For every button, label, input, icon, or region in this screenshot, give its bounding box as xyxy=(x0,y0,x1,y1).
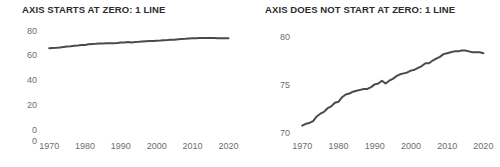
y-axis-tick-label: 70 xyxy=(280,128,290,138)
chart-panel-axis-does-not-start-at-zero: AXIS DOES NOT START AT ZERO: 1 LINE 7075… xyxy=(250,0,500,167)
y-axis-tick-label: 0 xyxy=(32,125,37,135)
plot-area-left: 0020406080197019801990200020102020 xyxy=(0,0,250,167)
x-axis-tick-label: 2000 xyxy=(139,141,175,151)
x-axis-tick-label: 2010 xyxy=(429,141,465,151)
x-axis-tick-label: 1990 xyxy=(103,141,139,151)
figure-panels: AXIS STARTS AT ZERO: 1 LINE 002040608019… xyxy=(0,0,500,167)
x-axis-tick-label: 2020 xyxy=(465,141,500,151)
y-axis-tick-label: 80 xyxy=(280,32,290,42)
chart-panel-axis-starts-at-zero: AXIS STARTS AT ZERO: 1 LINE 002040608019… xyxy=(0,0,250,167)
x-axis-tick-label: 1970 xyxy=(31,141,67,151)
x-axis-tick-label: 1990 xyxy=(357,141,393,151)
plot-area-right: 707580197019801990200020102020 xyxy=(250,0,500,167)
x-axis-tick-label: 1980 xyxy=(320,141,356,151)
y-axis-tick-label: 40 xyxy=(27,75,37,85)
y-axis-tick-label: 80 xyxy=(27,26,37,36)
line-series-life-expectancy xyxy=(49,38,228,48)
y-axis-tick-label: 20 xyxy=(27,100,37,110)
x-axis-tick-label: 2000 xyxy=(393,141,429,151)
x-axis-tick-label: 2020 xyxy=(210,141,246,151)
y-axis-tick-label: 60 xyxy=(27,50,37,60)
x-axis-tick-label: 1980 xyxy=(67,141,103,151)
y-axis-tick-label: 75 xyxy=(280,80,290,90)
x-axis-tick-label: 2010 xyxy=(175,141,211,151)
line-series-life-expectancy xyxy=(302,50,483,125)
x-axis-tick-label: 1970 xyxy=(284,141,320,151)
